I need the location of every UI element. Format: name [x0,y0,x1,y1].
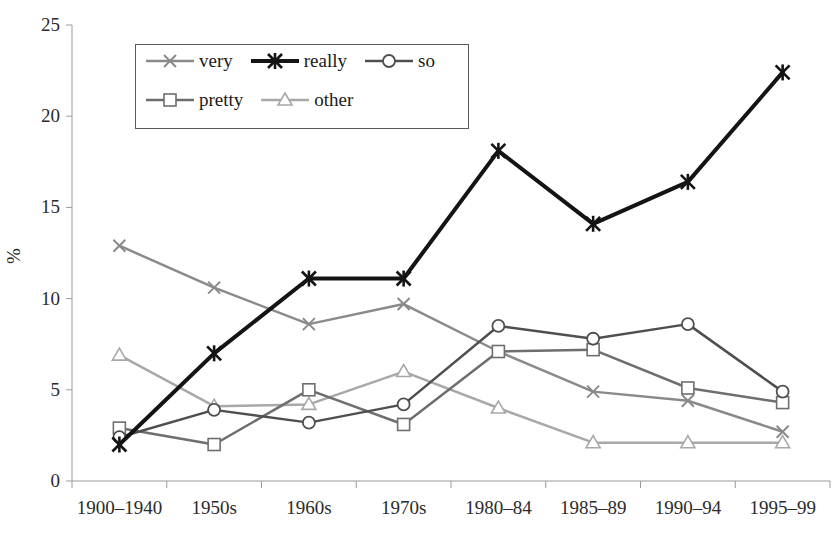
data-point-circle [492,320,504,332]
data-point-circle [398,398,410,410]
data-point-triangle [112,348,126,360]
data-point-circle [208,404,220,416]
legend-swatch-other [259,89,311,111]
legend-row-1: veryreallyso [144,50,451,72]
data-point-x-cross [113,240,125,252]
x-tick-label: 1970s [381,497,426,519]
data-point-square [682,382,694,394]
legend-label: very [199,50,233,72]
legend-entry-so[interactable]: so [363,50,435,72]
data-point-square [303,384,315,396]
x-tick-label: 1990–94 [655,497,722,519]
data-point-triangle [397,365,411,377]
legend-entry-very[interactable]: very [144,50,233,72]
data-point-circle [383,55,395,67]
legend-entry-pretty[interactable]: pretty [144,89,243,111]
x-tick-label: 1985–89 [560,497,627,519]
legend-label: so [418,50,435,72]
y-axis-title: % [3,248,25,264]
data-point-square [208,439,220,451]
legend-swatch-so [363,50,415,72]
legend-label: pretty [199,89,243,111]
data-point-asterisk [776,64,790,80]
x-tick-label: 1900–1940 [77,497,163,519]
x-tick-label: 1995–99 [749,497,816,519]
series-other [112,348,789,448]
data-point-circle [777,386,789,398]
data-point-square [398,418,410,430]
y-tick-label: 25 [14,14,60,36]
legend-label: other [314,89,353,111]
legend-swatch-very [144,50,196,72]
series-so [113,318,788,443]
x-tick-label: 1950s [191,497,236,519]
y-tick-label: 15 [14,196,60,218]
data-point-asterisk [491,143,505,159]
legend-swatch-pretty [144,89,196,111]
data-point-square [164,94,176,106]
legend-swatch-really [249,50,301,72]
data-point-x-cross [208,282,220,294]
data-point-square [492,345,504,357]
x-tick-label: 1980–84 [465,497,532,519]
y-tick-label: 0 [14,470,60,492]
data-point-circle [587,333,599,345]
legend-entry-other[interactable]: other [259,89,353,111]
data-point-asterisk [207,345,221,361]
data-point-circle [682,318,694,330]
data-point-circle [303,417,315,429]
y-tick-label: 20 [14,105,60,127]
y-tick-label: 5 [14,379,60,401]
legend-label: really [304,50,347,72]
legend-entry-really[interactable]: really [249,50,347,72]
y-tick-label: 10 [14,288,60,310]
data-point-asterisk [112,437,126,453]
legend: veryreallyso prettyother [135,44,469,129]
x-tick-label: 1960s [286,497,331,519]
chart-figure: % 0510152025 1900–19401950s1960s1970s198… [0,0,834,535]
legend-row-2: prettyother [144,89,369,111]
